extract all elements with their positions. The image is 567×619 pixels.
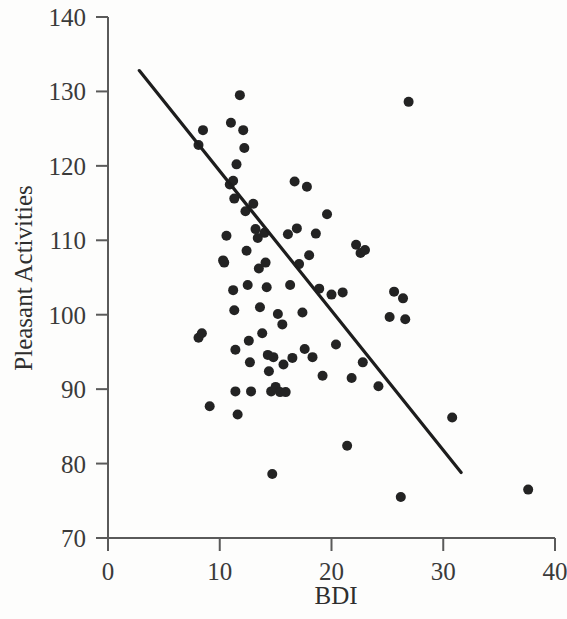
data-point — [228, 285, 238, 295]
data-point — [273, 309, 283, 319]
data-point — [205, 401, 215, 411]
data-point — [262, 282, 272, 292]
scatter-plot-figure: 708090100110120130140010203040 BDI Pleas… — [0, 0, 567, 619]
axis-tick-labels: 708090100110120130140010203040 — [49, 4, 567, 585]
axis-ticks — [96, 17, 555, 551]
data-point — [219, 258, 229, 268]
data-point — [246, 386, 256, 396]
data-point — [400, 314, 410, 324]
y-tick-label: 80 — [61, 451, 86, 478]
data-point — [267, 469, 277, 479]
data-point — [230, 386, 240, 396]
data-point — [221, 231, 231, 241]
data-point — [283, 229, 293, 239]
data-point — [261, 258, 271, 268]
data-point — [396, 492, 406, 502]
data-point — [233, 409, 243, 419]
data-point — [278, 360, 288, 370]
data-point — [264, 366, 274, 376]
data-point — [302, 182, 312, 192]
data-point — [277, 319, 287, 329]
data-point — [389, 287, 399, 297]
regression-line — [139, 71, 461, 473]
data-point — [285, 280, 295, 290]
data-point — [308, 352, 318, 362]
regression-fit-line — [139, 71, 461, 473]
x-axis-label: BDI — [314, 582, 357, 609]
data-point — [244, 336, 254, 346]
data-point — [327, 290, 337, 300]
y-tick-label: 140 — [49, 4, 87, 31]
data-point — [239, 143, 249, 153]
y-tick-label: 70 — [61, 525, 86, 552]
data-point — [347, 373, 357, 383]
y-tick-label: 120 — [49, 153, 87, 180]
data-point — [287, 353, 297, 363]
data-point — [360, 245, 370, 255]
data-point — [232, 159, 242, 169]
y-tick-label: 100 — [49, 302, 87, 329]
y-tick-label: 90 — [61, 376, 86, 403]
data-point — [255, 302, 265, 312]
data-point — [243, 280, 253, 290]
data-point — [290, 176, 300, 186]
data-point — [373, 381, 383, 391]
plot-canvas: 708090100110120130140010203040 BDI Pleas… — [0, 0, 567, 619]
data-point — [257, 328, 267, 338]
y-tick-label: 110 — [49, 227, 86, 254]
y-axis-label: Pleasant Activities — [10, 185, 37, 370]
x-tick-label: 20 — [319, 558, 344, 585]
data-point — [251, 224, 261, 234]
data-point — [230, 345, 240, 355]
data-point — [229, 305, 239, 315]
data-point — [235, 90, 245, 100]
data-point — [311, 229, 321, 239]
data-point — [245, 357, 255, 367]
data-point — [322, 209, 332, 219]
data-point — [358, 357, 368, 367]
x-tick-label: 40 — [543, 558, 567, 585]
data-point — [268, 352, 278, 362]
data-point — [331, 339, 341, 349]
data-point — [398, 293, 408, 303]
x-tick-label: 30 — [431, 558, 456, 585]
x-tick-label: 10 — [207, 558, 232, 585]
data-point — [292, 223, 302, 233]
data-point — [342, 441, 352, 451]
data-point — [523, 485, 533, 495]
data-point — [197, 328, 207, 338]
data-point — [242, 246, 252, 256]
data-point — [300, 344, 310, 354]
data-point — [281, 387, 291, 397]
x-tick-label: 0 — [102, 558, 115, 585]
data-point — [297, 307, 307, 317]
data-point — [238, 125, 248, 135]
data-point — [304, 250, 314, 260]
data-point — [318, 371, 328, 381]
data-point — [338, 287, 348, 297]
data-point — [404, 97, 414, 107]
data-point — [198, 125, 208, 135]
axes — [108, 17, 555, 538]
y-tick-label: 130 — [49, 78, 87, 105]
data-point — [226, 118, 236, 128]
data-point — [385, 312, 395, 322]
data-point — [447, 412, 457, 422]
data-points — [194, 90, 534, 502]
